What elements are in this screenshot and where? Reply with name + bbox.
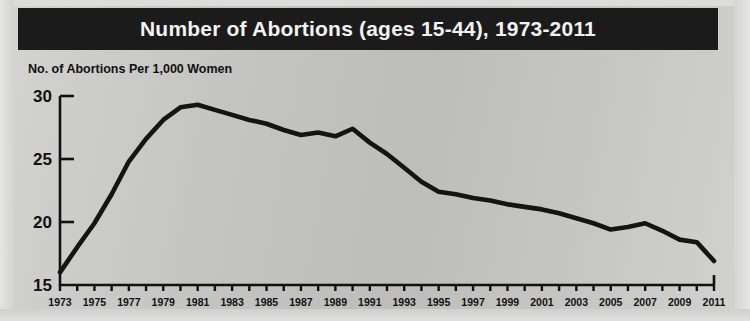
svg-text:30: 30 (33, 87, 52, 106)
svg-text:1975: 1975 (83, 296, 107, 308)
chart-figure: Number of Abortions (ages 15-44), 1973-2… (0, 0, 750, 321)
svg-text:1983: 1983 (220, 296, 244, 308)
svg-text:2009: 2009 (668, 296, 692, 308)
svg-text:2007: 2007 (633, 296, 657, 308)
svg-text:2011: 2011 (703, 296, 726, 308)
svg-text:2001: 2001 (530, 296, 554, 308)
svg-text:1993: 1993 (393, 296, 417, 308)
svg-text:15: 15 (33, 276, 52, 295)
svg-text:20: 20 (33, 213, 52, 232)
svg-text:1999: 1999 (496, 296, 520, 308)
svg-text:1997: 1997 (461, 296, 485, 308)
x-axis-tick-labels: 1973197519771979198119831985198719891991… (48, 296, 725, 308)
svg-text:1981: 1981 (186, 296, 210, 308)
y-axis-ticks (60, 159, 74, 222)
plot-area: 15202530 1973197519771979198119831985198… (0, 0, 750, 321)
svg-text:1973: 1973 (48, 296, 72, 308)
y-axis-tick-labels: 15202530 (33, 87, 52, 295)
line-chart-svg: 15202530 1973197519771979198119831985198… (0, 0, 750, 321)
data-series-line (60, 105, 714, 273)
svg-text:1977: 1977 (117, 296, 141, 308)
svg-text:2005: 2005 (599, 296, 623, 308)
svg-text:1995: 1995 (427, 296, 451, 308)
svg-text:2003: 2003 (565, 296, 589, 308)
svg-text:1991: 1991 (358, 296, 382, 308)
svg-text:1987: 1987 (289, 296, 313, 308)
svg-text:25: 25 (33, 150, 52, 169)
svg-text:1989: 1989 (324, 296, 348, 308)
svg-text:1985: 1985 (255, 296, 279, 308)
svg-text:1979: 1979 (152, 296, 176, 308)
